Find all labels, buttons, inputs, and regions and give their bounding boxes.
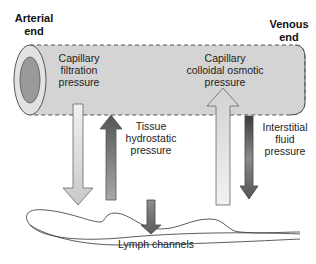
ifp-line3: pressure [256, 145, 314, 157]
cfp-line3: pressure [48, 76, 110, 88]
lymph-channels-label: Lymph channels [108, 238, 204, 250]
ifp-line1: Interstitial [256, 121, 314, 133]
ccop-line2: colloidal osmotic [180, 64, 270, 76]
capillary-colloidal-osmotic-pressure-label: Capillary colloidal osmotic pressure [180, 52, 270, 88]
filtration-arrow-down-icon [63, 104, 93, 205]
thp-line2: hydrostatic [118, 132, 184, 144]
arterial-end-line1: Arterial [4, 12, 64, 25]
capillary-filtration-pressure-label: Capillary filtration pressure [48, 52, 110, 88]
tube-lumen [20, 57, 40, 103]
venous-end-line2: end [262, 31, 316, 44]
lymph-channel-outline [26, 210, 300, 240]
tissue-hydrostatic-pressure-label: Tissue hydrostatic pressure [118, 120, 184, 156]
arterial-end-line2: end [4, 25, 64, 38]
venous-end-line1: Venous [262, 18, 316, 31]
venous-end-label: Venous end [262, 18, 316, 44]
ifp-line2: fluid [256, 133, 314, 145]
cfp-line1: Capillary [48, 52, 110, 64]
ccop-line3: pressure [180, 76, 270, 88]
thp-line1: Tissue [118, 120, 184, 132]
arterial-end-label: Arterial end [4, 12, 64, 38]
ccop-line1: Capillary [180, 52, 270, 64]
colloidal-arrow-up-icon [207, 88, 239, 205]
cfp-line2: filtration [48, 64, 110, 76]
thp-line3: pressure [118, 144, 184, 156]
interstitial-fluid-pressure-label: Interstitial fluid pressure [256, 121, 314, 157]
